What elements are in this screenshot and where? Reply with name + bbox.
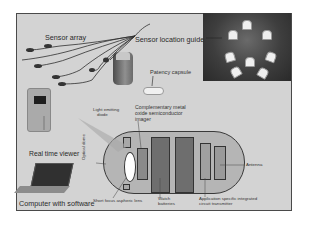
label-real-time-viewer: Real time viewer bbox=[29, 150, 79, 157]
label-optical-dome: Optical dome bbox=[82, 134, 87, 160]
label-short-focus-lens: Short focus aspheric lens bbox=[93, 199, 142, 204]
label-sensor-array: Sensor array bbox=[45, 34, 86, 42]
label-antenna: Antenna bbox=[246, 163, 262, 168]
label-cmos-line3: imager bbox=[135, 117, 151, 122]
label-watch-line2: batteries bbox=[158, 202, 175, 207]
label-patency-capsule: Patency capsule bbox=[150, 70, 191, 76]
label-computer-with-software: Computer with software bbox=[19, 200, 95, 208]
label-led-line2: diode bbox=[97, 113, 108, 118]
label-sensor-location-guide: Sensor location guide bbox=[135, 36, 204, 44]
label-asic-line2: circuit transmitter bbox=[199, 202, 232, 207]
